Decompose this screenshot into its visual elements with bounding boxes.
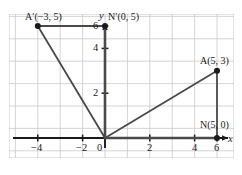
y-tick-label-2: 2 [93,88,98,99]
y-tick-label-6: 6 [93,21,98,32]
point-label-a-prime: A′(−3, 5) [25,12,62,22]
point-a [214,68,220,74]
y-tick-label-4: 4 [93,43,98,54]
x-tick-label-6: 6 [214,143,219,154]
x-axis-label: x [228,134,233,145]
point-n [214,135,220,141]
point-n-prime [102,23,108,29]
y-axis-label: y [99,11,104,22]
point-label-n: N(5, 0) [200,120,229,130]
coordinate-plane-figure: A′(−3, 5) N′(0, 5) A(5, 3) N(5, 0) y x −… [0,0,242,175]
x-tick-label-2: 2 [147,143,152,154]
x-tick-label-4: 4 [192,143,197,154]
x-tick-label-minus4: −4 [31,143,42,154]
point-label-n-prime: N′(0, 5) [108,12,139,22]
origin-label: 0 [97,143,102,154]
point-a-prime [35,23,41,29]
point-label-a: A(5, 3) [200,56,229,66]
x-tick-label-minus2: −2 [76,143,87,154]
